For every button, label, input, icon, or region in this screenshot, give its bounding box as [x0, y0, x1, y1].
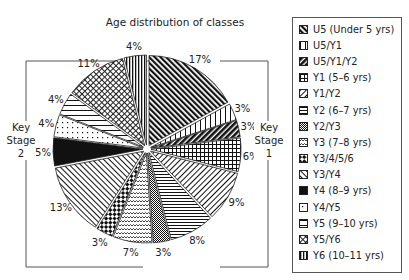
- percent-label: 4%: [48, 94, 64, 105]
- legend-item: Y3/4/5/6: [299, 151, 401, 167]
- percent-label: 3%: [155, 247, 171, 258]
- legend-item: Y3 (7–8 yrs): [299, 134, 401, 150]
- legend-item: Y2/Y3: [299, 118, 401, 134]
- legend-swatch-icon: [299, 235, 308, 244]
- legend-item: U5 (Under 5 yrs): [299, 21, 401, 37]
- legend-label: Y4 (8–9 yrs): [313, 185, 371, 196]
- legend-swatch-icon: [299, 89, 308, 98]
- pie-slices: [53, 55, 241, 243]
- percent-label: 8%: [189, 235, 205, 246]
- legend-item: Y1/Y2: [299, 86, 401, 102]
- legend-item: U5/Y1: [299, 37, 401, 53]
- legend: U5 (Under 5 yrs)U5/Y1U5/Y1/Y2Y1 (5–6 yrs…: [292, 17, 402, 273]
- percent-label: 13%: [50, 202, 72, 213]
- percent-label: 3%: [235, 103, 251, 114]
- legend-label: Y3/Y4: [313, 169, 341, 180]
- legend-item: Y4 (8–9 yrs): [299, 183, 401, 199]
- legend-swatch-icon: [299, 57, 308, 66]
- legend-swatch-icon: [299, 138, 308, 147]
- key-stage-1-label: KeyStage1: [254, 121, 284, 160]
- legend-label: Y2/Y3: [313, 121, 341, 132]
- legend-item: Y4/Y5: [299, 199, 401, 215]
- legend-swatch-icon: [299, 106, 308, 115]
- percent-label: 11%: [77, 58, 99, 69]
- legend-label: U5/Y1/Y2: [313, 56, 357, 67]
- percent-label: 7%: [123, 247, 139, 258]
- percent-label: 4%: [38, 118, 54, 129]
- percent-label: 9%: [229, 197, 245, 208]
- percent-label: 3%: [92, 237, 108, 248]
- legend-label: U5 (Under 5 yrs): [313, 24, 394, 35]
- legend-swatch-icon: [299, 25, 308, 34]
- legend-item: Y2 (6–7 yrs): [299, 102, 401, 118]
- legend-swatch-icon: [299, 73, 308, 82]
- legend-swatch-icon: [299, 122, 308, 131]
- legend-label: Y6 (10–11 yrs): [313, 250, 384, 261]
- legend-item: Y5/Y6: [299, 231, 401, 247]
- legend-swatch-icon: [299, 154, 308, 163]
- percent-label: 17%: [189, 54, 211, 65]
- legend-label: Y1 (5–6 yrs): [313, 72, 371, 83]
- legend-item: U5/Y1/Y2: [299, 53, 401, 69]
- legend-swatch-icon: [299, 219, 308, 228]
- legend-label: Y5/Y6: [313, 234, 341, 245]
- legend-label: Y5 (9–10 yrs): [313, 218, 378, 229]
- legend-item: Y6 (10–11 yrs): [299, 248, 401, 264]
- legend-item: Y5 (9–10 yrs): [299, 215, 401, 231]
- legend-swatch-icon: [299, 251, 308, 260]
- legend-label: Y1/Y2: [313, 88, 341, 99]
- legend-label: Y3 (7–8 yrs): [313, 137, 371, 148]
- key-stage-2-label: KeyStage2: [6, 121, 36, 160]
- percent-label: 5%: [35, 147, 51, 158]
- legend-swatch-icon: [299, 203, 308, 212]
- legend-label: Y3/4/5/6: [313, 153, 354, 164]
- legend-swatch-icon: [299, 186, 308, 195]
- legend-label: U5/Y1: [313, 40, 342, 51]
- legend-label: Y4/Y5: [313, 202, 341, 213]
- percent-label: 4%: [126, 41, 142, 52]
- legend-label: Y2 (6–7 yrs): [313, 105, 371, 116]
- legend-item: Y1 (5–6 yrs): [299, 70, 401, 86]
- legend-swatch-icon: [299, 170, 308, 179]
- legend-item: Y3/Y4: [299, 167, 401, 183]
- legend-swatch-icon: [299, 41, 308, 50]
